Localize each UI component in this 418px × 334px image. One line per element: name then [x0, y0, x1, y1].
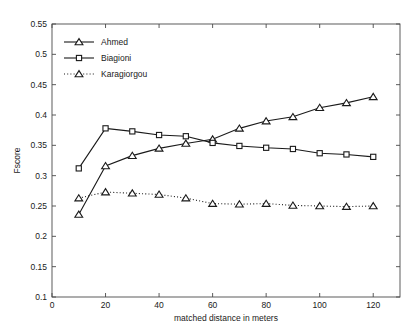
marker-square — [371, 154, 376, 159]
marker-square — [130, 129, 135, 134]
x-tick-label: 100 — [313, 300, 327, 310]
marker-triangle — [75, 195, 83, 201]
legend-label: Biagioni — [101, 53, 131, 63]
legend-item-karagiorgou[interactable]: Karagiorgou — [64, 69, 148, 79]
x-axis-ticks — [52, 24, 373, 297]
marker-square — [290, 146, 295, 151]
y-tick-label: 0.15 — [30, 262, 47, 272]
series-biagioni — [76, 126, 376, 171]
x-tick-label: 120 — [366, 300, 380, 310]
marker-triangle — [182, 195, 190, 201]
marker-triangle — [155, 191, 163, 197]
marker-square — [317, 151, 322, 156]
marker-square — [264, 145, 269, 150]
marker-triangle — [102, 189, 110, 195]
x-tick-label: 40 — [154, 300, 164, 310]
y-tick-label: 0.35 — [30, 140, 47, 150]
series-layer — [75, 93, 377, 217]
legend-label: Ahmed — [101, 37, 128, 47]
marker-triangle — [102, 163, 110, 169]
x-axis-tick-labels: 020406080100120 — [50, 300, 381, 310]
marker-triangle — [316, 203, 324, 209]
marker-square — [344, 152, 349, 157]
y-tick-label: 0.2 — [35, 231, 47, 241]
legend-item-ahmed[interactable]: Ahmed — [64, 37, 128, 47]
y-axis-tick-labels: 0.10.150.20.250.30.350.40.450.50.55 — [30, 19, 47, 302]
y-tick-label: 0.3 — [35, 171, 47, 181]
line-chart: 020406080100120 0.10.150.20.250.30.350.4… — [0, 0, 418, 334]
figure-container: 020406080100120 0.10.150.20.250.30.350.4… — [0, 0, 418, 334]
x-tick-label: 80 — [261, 300, 271, 310]
series-line — [79, 97, 373, 215]
marker-square — [237, 143, 242, 148]
y-tick-label: 0.4 — [35, 110, 47, 120]
marker-square — [103, 126, 108, 131]
y-tick-label: 0.25 — [30, 201, 47, 211]
marker-triangle — [369, 203, 377, 209]
marker-triangle — [235, 201, 243, 207]
series-karagiorgou — [75, 189, 377, 210]
y-axis-ticks — [52, 24, 400, 297]
axis-frame — [52, 24, 400, 297]
x-tick-label: 20 — [101, 300, 111, 310]
marker-triangle — [369, 93, 377, 99]
marker-square — [156, 132, 161, 137]
x-tick-label: 0 — [50, 300, 55, 310]
y-tick-label: 0.1 — [35, 292, 47, 302]
marker-square — [76, 55, 81, 60]
series-ahmed — [75, 93, 377, 217]
y-tick-label: 0.45 — [30, 80, 47, 90]
marker-triangle — [75, 71, 83, 77]
chart-legend: AhmedBiagioniKaragiorgou — [64, 37, 148, 79]
marker-triangle — [289, 113, 297, 119]
marker-triangle — [75, 211, 83, 217]
y-tick-label: 0.5 — [35, 49, 47, 59]
y-tick-label: 0.55 — [30, 19, 47, 29]
series-line — [79, 192, 373, 207]
x-axis-title: matched distance in meters — [174, 313, 278, 323]
marker-square — [183, 134, 188, 139]
x-tick-label: 60 — [208, 300, 218, 310]
legend-label: Karagiorgou — [101, 69, 148, 79]
marker-square — [76, 166, 81, 171]
y-axis-title: Fscore — [12, 147, 22, 173]
marker-square — [210, 140, 215, 145]
legend-item-biagioni[interactable]: Biagioni — [64, 53, 131, 63]
